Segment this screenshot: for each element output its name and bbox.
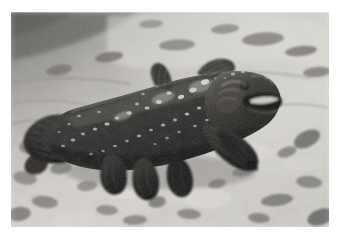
image-caption [0, 0, 1, 1]
photograph [11, 12, 329, 227]
screenshot-root [0, 0, 339, 239]
coelacanth-photograph-content [11, 12, 329, 227]
